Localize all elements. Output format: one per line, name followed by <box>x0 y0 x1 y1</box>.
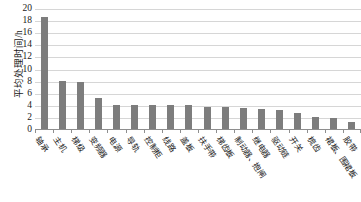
plot-area <box>35 9 361 130</box>
bar-chart: 平均处理时间/h 20181614121086420 轴承主机梯级变频器电源导轨… <box>0 0 361 202</box>
x-axis-category-labels: 轴承主机梯级变频器电源导轨控制柜线路盖板扶手带梯齿板制动器、抱闸继电器驱动链开关… <box>35 133 361 202</box>
y-axis-tick-label: 2 <box>14 113 32 122</box>
bar <box>312 117 319 129</box>
y-axis-tick-label: 14 <box>14 40 32 49</box>
bar <box>276 110 283 129</box>
x-axis-category-label: 导轨 <box>124 135 140 153</box>
y-axis-tick-label: 10 <box>14 65 32 74</box>
bar <box>330 118 337 129</box>
bar <box>149 105 156 129</box>
x-axis-category-label: 线路 <box>160 135 176 153</box>
bar <box>185 105 192 129</box>
bar <box>240 108 247 129</box>
x-axis-category-label: 驱动链 <box>269 135 290 160</box>
y-axis-tick-label: 0 <box>14 125 32 134</box>
bar <box>77 82 84 129</box>
bar <box>95 98 102 129</box>
x-axis-category-label: 开关 <box>287 135 303 153</box>
y-axis-tick-label: 12 <box>14 52 32 61</box>
x-axis-category-label: 主机 <box>52 135 68 153</box>
x-axis-category-label: 梳齿 <box>305 135 321 153</box>
bar <box>348 122 355 129</box>
bar <box>222 107 229 129</box>
bar <box>41 17 48 129</box>
y-axis-tick-label: 8 <box>14 77 32 86</box>
bar <box>258 109 265 129</box>
y-axis-tick-label: 20 <box>14 4 32 13</box>
bar <box>113 105 120 129</box>
y-axis-tick-label: 4 <box>14 101 32 110</box>
x-axis-category-label: 变频器 <box>88 135 109 160</box>
bar <box>59 81 66 129</box>
bar <box>131 105 138 129</box>
bars-group <box>35 9 361 130</box>
x-axis-category-label: 盖板 <box>178 135 194 153</box>
bar <box>167 105 174 129</box>
x-axis-category-label: 梯级 <box>70 135 86 153</box>
bar <box>204 107 211 129</box>
y-axis-tick-label: 16 <box>14 28 32 37</box>
x-axis-category-label: 电源 <box>106 135 122 153</box>
y-axis-tick-labels: 20181614121086420 <box>14 0 32 130</box>
x-axis-category-label: 轴承 <box>34 135 50 153</box>
y-axis-tick-label: 6 <box>14 89 32 98</box>
x-axis-category-label: 胶带 <box>341 135 357 153</box>
y-axis-tick-label: 18 <box>14 16 32 25</box>
bar <box>294 113 301 129</box>
